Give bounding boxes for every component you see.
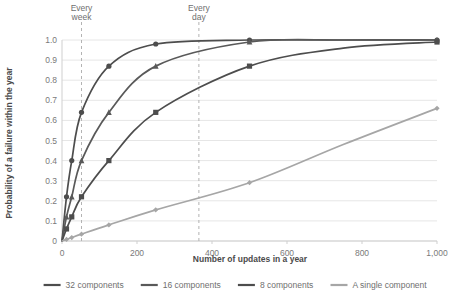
data-point-marker — [64, 226, 69, 231]
data-point-marker — [69, 214, 74, 219]
gridlines-group — [62, 40, 437, 241]
annotation-label-line2: day — [192, 12, 206, 22]
data-point-marker — [79, 232, 84, 237]
data-point-marker — [153, 41, 158, 46]
legend-item[interactable]: 32 components — [44, 280, 124, 290]
y-tick-label: 0.7 — [45, 95, 57, 105]
data-point-marker — [106, 222, 111, 227]
data-point-marker — [153, 207, 158, 212]
data-point-marker — [64, 194, 69, 199]
series-group — [62, 37, 440, 242]
legend-item[interactable]: 16 components — [141, 280, 221, 290]
series-a-single-component — [62, 106, 440, 242]
legend-item[interactable]: 8 components — [238, 280, 313, 290]
y-tick-label: 0.4 — [45, 156, 57, 166]
y-tick-labels: 00.10.20.30.40.50.60.70.80.91.0 — [45, 35, 57, 246]
data-point-marker — [106, 158, 111, 163]
x-tick-label: 0 — [60, 248, 65, 258]
y-tick-label: 0.8 — [45, 75, 57, 85]
data-point-marker — [434, 106, 439, 111]
legend-label: 32 components — [66, 280, 124, 290]
y-tick-label: 1.0 — [45, 35, 57, 45]
y-tick-label: 0.2 — [45, 196, 57, 206]
line-chart: 00.10.20.30.40.50.60.70.80.91.0 02004006… — [0, 0, 466, 308]
y-tick-label: 0.9 — [45, 55, 57, 65]
y-axis-title: Probability of a failure within the year — [4, 67, 14, 219]
data-point-marker — [106, 64, 111, 69]
x-tick-label: 800 — [355, 248, 369, 258]
data-point-marker — [153, 110, 158, 115]
series-line — [62, 42, 437, 241]
x-tick-label: 200 — [130, 248, 144, 258]
data-point-marker — [69, 235, 74, 240]
chart-container: 00.10.20.30.40.50.60.70.80.91.0 02004006… — [0, 0, 466, 308]
x-tick-label: 1,000 — [426, 248, 448, 258]
y-tick-label: 0.3 — [45, 176, 57, 186]
legend-label: 8 components — [260, 280, 313, 290]
x-axis-title: Number of updates in a year — [193, 254, 308, 264]
annotation-labels: EveryweekEveryday — [71, 3, 211, 22]
plot-frame — [62, 40, 437, 244]
annotation-lines-group — [82, 22, 199, 241]
data-point-marker — [247, 64, 252, 69]
data-point-marker — [79, 194, 84, 199]
annotation-label-line2: week — [71, 12, 93, 22]
legend-label: 16 components — [163, 280, 221, 290]
y-tick-label: 0.5 — [45, 136, 57, 146]
data-point-marker — [79, 110, 84, 115]
data-point-marker — [69, 158, 74, 163]
y-tick-label: 0.6 — [45, 115, 57, 125]
y-tick-label: 0.1 — [45, 216, 57, 226]
data-point-marker — [434, 39, 439, 44]
y-tick-label: 0 — [52, 236, 57, 246]
legend-label: A single component — [353, 280, 428, 290]
legend: 32 components16 components8 componentsA … — [44, 280, 428, 290]
legend-item[interactable]: A single component — [331, 280, 428, 290]
data-point-marker — [69, 194, 75, 200]
